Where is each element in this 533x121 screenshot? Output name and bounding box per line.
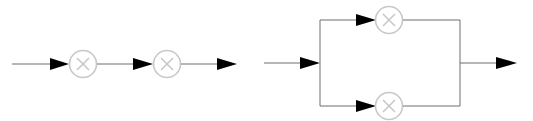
arrowhead-icon [300,57,320,69]
arrowhead-icon [356,14,376,26]
multiplier-node-bottom [376,93,403,120]
parallel-diagram [264,7,517,120]
series-diagram [12,51,237,78]
arrowhead-icon [133,58,153,70]
arrowhead-icon [496,57,517,69]
arrowhead-icon [356,100,376,112]
multiplier-node-1 [70,51,97,78]
arrowhead-icon [217,58,237,70]
diagram-canvas [0,0,533,121]
multiplier-node-top [376,7,403,34]
multiplier-node-2 [154,51,181,78]
arrowhead-icon [50,58,69,70]
